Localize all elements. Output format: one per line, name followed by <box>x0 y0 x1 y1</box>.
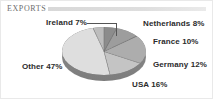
pie-label-usa: USA 16% <box>132 80 168 89</box>
pie-leader-line-ireland-vertical <box>116 23 117 36</box>
pie-label-germany: Germany 12% <box>153 60 207 69</box>
page-title: EXPORTS <box>7 4 46 13</box>
pie-leader-line-ireland-horizontal <box>87 23 117 24</box>
chart-canvas: EXPORTS Ireland 7% Netherlands 8% France… <box>0 0 213 99</box>
pie-label-netherlands: Netherlands 8% <box>143 19 204 28</box>
pie-label-france: France 10% <box>153 37 198 46</box>
pie-top-face <box>62 27 146 75</box>
pie-chart-plot-area: Ireland 7% Netherlands 8% France 10% Ger… <box>1 15 213 99</box>
pie-label-other: Other 47% <box>22 62 62 71</box>
header-rule <box>48 7 206 11</box>
pie-chart <box>62 27 146 83</box>
pie-label-ireland: Ireland 7% <box>46 18 87 27</box>
